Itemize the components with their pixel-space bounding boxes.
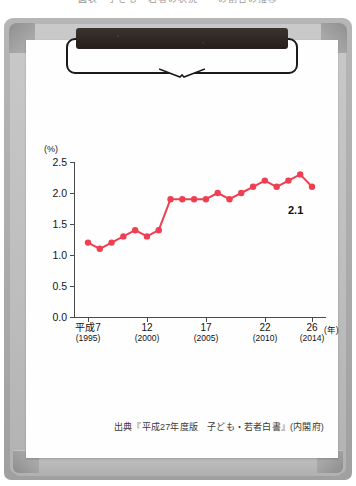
series-canvas: [74, 162, 326, 318]
data-point: [191, 196, 197, 202]
data-point: [85, 239, 91, 245]
x-tick-label-2000-era: 12: [135, 322, 160, 334]
data-point: [97, 246, 103, 252]
x-axis-unit-label: (年): [324, 323, 339, 335]
data-point: [108, 239, 114, 245]
data-point: [179, 196, 185, 202]
x-tick-label-1995-west: (1995): [75, 334, 101, 344]
data-point: [214, 190, 220, 196]
clipboard: (%) 0.0 0.5 1.0 1.5 2.0 2.5: [4, 18, 352, 480]
data-point: [144, 233, 150, 239]
x-tick-label-2014-era: 26: [300, 322, 325, 334]
y-tick-label-4: 2.0: [52, 187, 67, 199]
line-chart: (%) 0.0 0.5 1.0 1.5 2.0 2.5: [26, 140, 338, 340]
data-point: [226, 196, 232, 202]
top-cutoff-caption-text: 図表 子ども・若者の状況 の割合の推移: [78, 0, 278, 5]
data-point: [250, 184, 256, 190]
top-cutoff-caption: 図表 子ども・若者の状況 の割合の推移: [0, 0, 356, 9]
x-tick-label-2010: 22 (2010): [253, 322, 278, 343]
data-point: [238, 190, 244, 196]
data-point: [156, 227, 162, 233]
data-point: [203, 196, 209, 202]
data-point: [120, 233, 126, 239]
data-point: [273, 184, 279, 190]
x-tick-label-2010-west: (2010): [253, 334, 278, 344]
y-tick-label-0: 0.0: [52, 311, 67, 323]
x-tick-label-2000: 12 (2000): [135, 322, 160, 343]
y-tick-label-2: 1.0: [52, 249, 67, 261]
plot-area: 0.0 0.5 1.0 1.5 2.0 2.5 平成7: [74, 162, 326, 318]
source-note: 出典『平成27年度版 子ども・若者白書』(内閣府): [26, 420, 338, 433]
annotation-end-value: 2.1: [288, 204, 303, 216]
data-point: [167, 196, 173, 202]
y-axis-unit-label: (%): [44, 144, 58, 154]
screenshot-root: 図表 子ども・若者の状況 の割合の推移 (%) 0.0: [0, 0, 356, 486]
x-tick-label-2005-era: 17: [194, 322, 219, 334]
y-tick-label-3: 1.5: [52, 218, 67, 230]
clipboard-clip-pad[interactable]: [76, 28, 288, 49]
data-point: [297, 171, 303, 177]
x-tick-label-2010-era: 22: [253, 322, 278, 334]
data-point: [132, 227, 138, 233]
clipboard-clip-notch-icon: [159, 68, 205, 79]
data-point: [309, 184, 315, 190]
x-tick-label-2014: 26 (2014): [300, 322, 325, 343]
x-tick-label-2005-west: (2005): [194, 334, 219, 344]
x-tick-label-1995-era: 平成7: [75, 322, 101, 334]
data-point: [262, 177, 268, 183]
x-tick-label-2014-west: (2014): [300, 334, 325, 344]
x-tick-label-1995: 平成7 (1995): [75, 322, 101, 343]
data-point: [285, 177, 291, 183]
y-tick-label-1: 0.5: [52, 280, 67, 292]
y-tick-label-5: 2.5: [52, 156, 67, 168]
x-tick-label-2005: 17 (2005): [194, 322, 219, 343]
x-tick-label-2000-west: (2000): [135, 334, 160, 344]
